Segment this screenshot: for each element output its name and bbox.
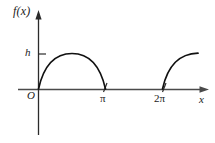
y-axis bbox=[35, 10, 41, 135]
origin-label: O bbox=[27, 90, 35, 101]
y-axis-arrowhead bbox=[35, 10, 41, 20]
graph-figure: f(x) h O π 2π x bbox=[0, 0, 215, 143]
height-marker-label: h bbox=[25, 47, 31, 58]
x-axis-arrowhead bbox=[200, 86, 210, 92]
curve-arch-first bbox=[39, 54, 106, 90]
x-tick-label-2pi: 2π bbox=[154, 93, 165, 104]
curve-arch-second bbox=[163, 53, 199, 89]
y-axis-label: f(x) bbox=[13, 5, 30, 17]
x-tick-label-pi: π bbox=[100, 93, 106, 104]
graph-canvas bbox=[0, 0, 215, 143]
x-axis bbox=[18, 86, 209, 92]
x-axis-label: x bbox=[199, 94, 204, 105]
